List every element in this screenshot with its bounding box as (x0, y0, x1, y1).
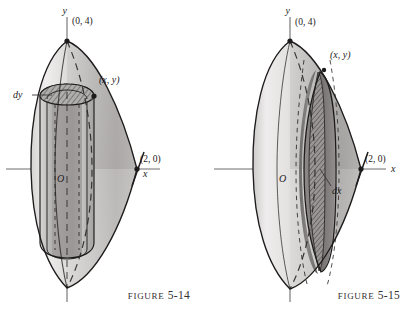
y-axis-label: y (285, 5, 291, 16)
x-axis-label: x (390, 163, 396, 174)
figure-5-14-drawing: y (0, 4) (x, y) (2, 0) x O dy (0, 0, 208, 317)
figure-sheet: y (0, 4) (x, y) (2, 0) x O dy Figure 5-1… (0, 0, 416, 317)
point-x-y-marker (91, 93, 96, 98)
figure-5-14-caption: Figure 5-14 (0, 288, 208, 303)
caption-number: 5-14 (168, 289, 190, 301)
figure-5-14-panel: y (0, 4) (x, y) (2, 0) x O dy Figure 5-1… (0, 0, 208, 317)
caption-number: 5-15 (378, 289, 400, 301)
point-x-y-label: (x, y) (330, 49, 351, 61)
point-2-0-label: (2, 0) (140, 154, 161, 165)
point-x-y-marker (322, 68, 326, 72)
figure-5-15-panel: y (0, 4) (x, y) (2, 0) x O dx Figure 5-1… (208, 0, 416, 317)
y-axis-label: y (62, 5, 68, 16)
dx-label: dx (332, 185, 342, 196)
caption-word: Figure (338, 288, 375, 302)
shell-left-wall (40, 96, 52, 256)
point-0-4-marker (287, 38, 292, 43)
dy-label: dy (13, 89, 23, 100)
point-0-4-label: (0, 4) (295, 17, 316, 28)
point-x-y-label: (x, y) (99, 74, 120, 86)
figure-5-15-drawing: y (0, 4) (x, y) (2, 0) x O dx (208, 0, 416, 317)
caption-word: Figure (128, 288, 165, 302)
origin-label: O (57, 173, 64, 184)
point-0-4-marker (64, 38, 69, 43)
figure-5-15-caption: Figure 5-15 (208, 288, 416, 303)
x-axis-label: x (142, 168, 148, 179)
origin-label: O (279, 173, 286, 184)
point-2-0-label: (2, 0) (365, 154, 386, 165)
point-0-4-label: (0, 4) (72, 16, 93, 27)
